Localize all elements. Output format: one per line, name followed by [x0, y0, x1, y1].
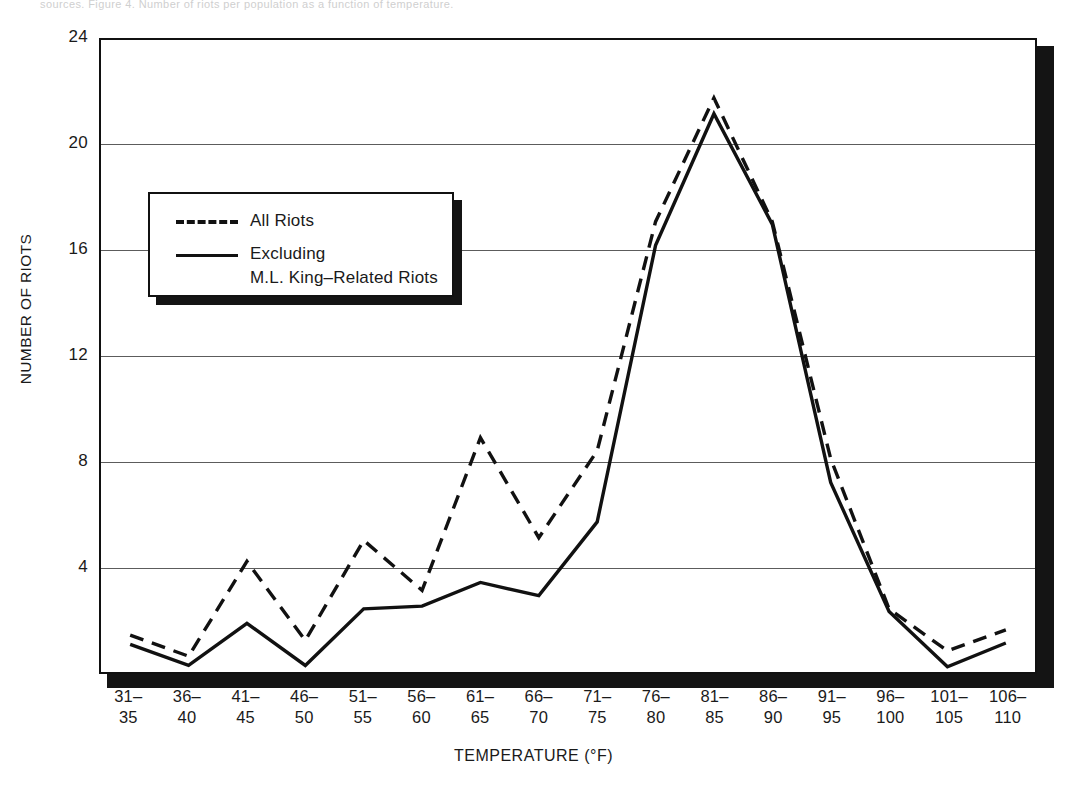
legend-label-excluding: Excluding [250, 244, 326, 264]
y-tick-label-20: 20 [42, 133, 88, 153]
y-tick-label-24: 24 [42, 27, 88, 47]
y-axis-title: NUMBER OF RIOTS [17, 199, 35, 419]
x-tick-label-106-110: 106–110 [968, 686, 1048, 728]
y-tick-label-12: 12 [42, 345, 88, 365]
legend-label-all-riots: All Riots [250, 211, 314, 231]
x-tick-line1: 106– [968, 686, 1048, 707]
riots-temperature-figure: sources. Figure 4. Number of riots per p… [0, 0, 1067, 792]
top-strip-text: sources. Figure 4. Number of riots per p… [40, 0, 1067, 10]
y-tick-label-16: 16 [42, 239, 88, 259]
plot-area [99, 38, 1037, 674]
legend-key-dashed-icon [176, 220, 238, 224]
page-top-text-strip: sources. Figure 4. Number of riots per p… [0, 0, 1067, 16]
legend-key-solid-icon [176, 254, 238, 257]
x-axis-title: TEMPERATURE (°F) [0, 747, 1067, 765]
y-tick-label-4: 4 [42, 557, 88, 577]
legend-label-excluding-line2: M.L. King–Related Riots [250, 268, 438, 288]
x-tick-line2: 110 [968, 707, 1048, 728]
series-lines-svg [101, 40, 1035, 672]
y-tick-label-8: 8 [42, 451, 88, 471]
legend-box: All Riots Excluding M.L. King–Related Ri… [148, 192, 454, 297]
series-line-all-riots [130, 98, 1006, 656]
